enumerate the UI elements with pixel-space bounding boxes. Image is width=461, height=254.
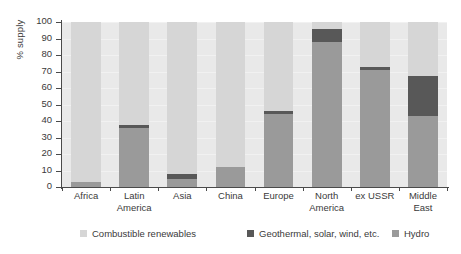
- x-axis-labels: AfricaLatinAmericaAsiaChinaEuropeNorthAm…: [62, 190, 447, 224]
- y-tick-label: 30: [12, 131, 52, 142]
- bar-slot: [62, 22, 110, 187]
- stacked-bar[interactable]: [71, 22, 101, 187]
- bar-segment[interactable]: [71, 22, 101, 182]
- x-tick-label-line: America: [110, 202, 158, 214]
- bar-slot: [399, 22, 447, 187]
- legend-swatch-icon: [247, 230, 254, 237]
- x-tick-label: Europe: [255, 190, 303, 202]
- x-tick-label-line: Middle: [399, 190, 447, 202]
- legend-swatch-icon: [80, 230, 87, 237]
- bar-slot: [351, 22, 399, 187]
- bar-segment[interactable]: [312, 22, 342, 29]
- stacked-bar[interactable]: [167, 22, 197, 187]
- stacked-bar[interactable]: [264, 22, 294, 187]
- stacked-bar[interactable]: [119, 22, 149, 187]
- x-tick-label: Africa: [62, 190, 110, 202]
- bar-segment[interactable]: [264, 22, 294, 111]
- stacked-bar[interactable]: [312, 22, 342, 187]
- bar-segment[interactable]: [119, 22, 149, 125]
- bar-segment[interactable]: [264, 111, 294, 114]
- bar-slot: [158, 22, 206, 187]
- x-tick: [447, 187, 448, 191]
- y-tick-label: 60: [12, 81, 52, 92]
- bar-segment[interactable]: [119, 128, 149, 187]
- x-tick-label-line: Africa: [62, 190, 110, 202]
- bar-slot: [110, 22, 158, 187]
- x-tick-label: NorthAmerica: [303, 190, 351, 213]
- bar-segment[interactable]: [312, 29, 342, 42]
- x-tick-label: China: [206, 190, 254, 202]
- x-tick-label-line: China: [206, 190, 254, 202]
- bar-segment[interactable]: [264, 114, 294, 187]
- bar-segment[interactable]: [167, 179, 197, 187]
- bars-group: [62, 22, 447, 187]
- bar-slot: [303, 22, 351, 187]
- bar-segment[interactable]: [312, 42, 342, 187]
- y-tick-label: 80: [12, 48, 52, 59]
- x-tick-label-line: Asia: [158, 190, 206, 202]
- legend-swatch-icon: [392, 230, 399, 237]
- stacked-bar[interactable]: [216, 22, 246, 187]
- y-tick-label: 70: [12, 65, 52, 76]
- y-tick-label: 20: [12, 147, 52, 158]
- bar-segment[interactable]: [360, 67, 390, 69]
- chart-legend: Combustible renewablesGeothermal, solar,…: [0, 228, 461, 244]
- bar-segment[interactable]: [167, 22, 197, 174]
- x-tick-label-line: North: [303, 190, 351, 202]
- bar-segment[interactable]: [408, 116, 438, 187]
- x-tick-label-line: ex USSR: [351, 190, 399, 202]
- legend-label: Geothermal, solar, wind, etc.: [259, 228, 379, 239]
- x-tick-label-line: Europe: [255, 190, 303, 202]
- x-tick-label: ex USSR: [351, 190, 399, 202]
- legend-label: Hydro: [404, 228, 429, 239]
- bar-segment[interactable]: [71, 182, 101, 187]
- legend-item[interactable]: Geothermal, solar, wind, etc.: [247, 228, 379, 239]
- bar-segment[interactable]: [119, 125, 149, 127]
- x-tick-label-line: America: [303, 202, 351, 214]
- bar-slot: [255, 22, 303, 187]
- x-tick-label-line: East: [399, 202, 447, 214]
- legend-item[interactable]: Combustible renewables: [80, 228, 196, 239]
- legend-label: Combustible renewables: [92, 228, 196, 239]
- x-tick-label: MiddleEast: [399, 190, 447, 213]
- x-tick-label: LatinAmerica: [110, 190, 158, 213]
- legend-item[interactable]: Hydro: [392, 228, 429, 239]
- x-tick-label-line: Latin: [110, 190, 158, 202]
- stacked-bar[interactable]: [360, 22, 390, 187]
- bar-segment[interactable]: [216, 22, 246, 167]
- y-tick-label: 0: [12, 180, 52, 191]
- bar-segment[interactable]: [408, 76, 438, 116]
- y-tick-label: 50: [12, 98, 52, 109]
- stacked-bar[interactable]: [408, 22, 438, 187]
- bar-segment[interactable]: [360, 22, 390, 67]
- stacked-bar-chart: % supply 0102030405060708090100 AfricaLa…: [0, 0, 461, 254]
- bar-segment[interactable]: [408, 22, 438, 76]
- bar-slot: [206, 22, 254, 187]
- bar-segment[interactable]: [360, 70, 390, 187]
- x-tick-label: Asia: [158, 190, 206, 202]
- bar-segment[interactable]: [216, 167, 246, 187]
- y-tick-label: 40: [12, 114, 52, 125]
- bar-segment[interactable]: [167, 174, 197, 179]
- y-tick-label: 100: [12, 15, 52, 26]
- y-tick-label: 10: [12, 164, 52, 175]
- y-tick-label: 90: [12, 32, 52, 43]
